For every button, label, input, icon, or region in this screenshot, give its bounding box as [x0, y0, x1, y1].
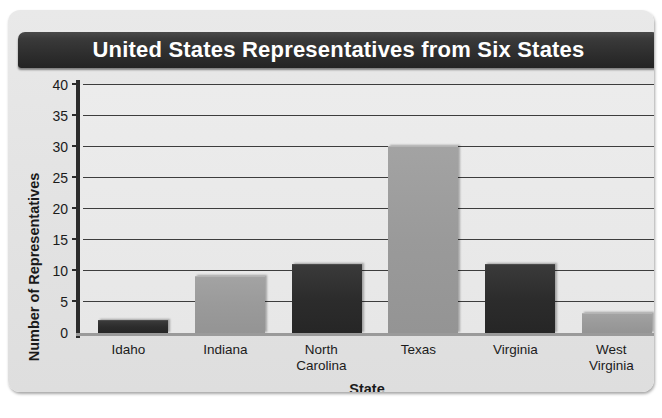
bar-indiana: [195, 276, 265, 333]
bar-north-carolina: [292, 264, 362, 333]
y-tick-label: 20: [34, 201, 68, 217]
chart-title-bar: United States Representatives from Six S…: [18, 32, 654, 68]
plot-area-wrapper: [76, 76, 654, 338]
x-axis-tick-labels: IdahoIndianaNorth CarolinaTexasVirginiaW…: [76, 342, 654, 382]
y-tick-label: 25: [34, 170, 68, 186]
bar-texas: [388, 146, 458, 333]
bar-west-virginia: [582, 313, 652, 333]
x-tick-label: Virginia: [467, 342, 564, 358]
y-axis-line: [76, 80, 80, 338]
gridline: [83, 146, 654, 147]
gridline: [83, 84, 654, 85]
chart-panel: United States Representatives from Six S…: [8, 10, 654, 392]
gridline: [83, 239, 654, 240]
plot-area: [76, 85, 654, 333]
x-axis-title: State: [76, 381, 654, 392]
x-tick-label: West Virginia: [563, 342, 654, 374]
gridline: [83, 177, 654, 178]
bar-idaho: [98, 320, 168, 333]
chart-title: United States Representatives from Six S…: [93, 37, 585, 63]
x-tick-label: Texas: [370, 342, 467, 358]
x-tick-label: Idaho: [80, 342, 177, 358]
y-tick-label: 35: [34, 108, 68, 124]
gridline: [83, 270, 654, 271]
gridline: [83, 208, 654, 209]
y-tick-label: 15: [34, 232, 68, 248]
chart-figure: United States Representatives from Six S…: [0, 0, 662, 418]
gridline: [83, 301, 654, 302]
x-axis-line: [76, 333, 654, 336]
y-tick-label: 30: [34, 139, 68, 155]
y-tick-label: 5: [34, 294, 68, 310]
gridline: [83, 115, 654, 116]
x-tick-label: Indiana: [177, 342, 274, 358]
y-tick-label: 0: [34, 325, 68, 341]
bar-virginia: [485, 264, 555, 333]
y-axis-tick-labels: 0510152025303540: [28, 76, 68, 338]
y-tick-label: 10: [34, 263, 68, 279]
x-tick-label: North Carolina: [273, 342, 370, 374]
y-tick-label: 40: [34, 77, 68, 93]
